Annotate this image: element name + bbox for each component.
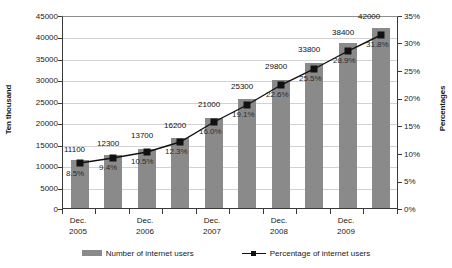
percent-label-6: 22.6% — [266, 91, 289, 99]
y-right-tick-15: 15% — [404, 123, 438, 131]
y-left-tick-5000: 5000 — [14, 185, 58, 193]
x-axis-label-2008: Dec. 2008 — [255, 216, 303, 237]
y-left-tick-40000: 40000 — [14, 34, 58, 42]
percent-label-2: 10.5% — [131, 158, 154, 166]
x-axis-label-2009: Dec. 2009 — [322, 216, 370, 237]
marker-point-2 — [144, 149, 151, 156]
y-left-tick-0: 0 — [14, 206, 58, 214]
bar-swatch-icon — [82, 250, 102, 256]
percent-label-1: 9.4% — [99, 164, 117, 172]
percent-label-8: 28.9% — [333, 57, 356, 65]
x-tickmark — [330, 209, 331, 214]
y-right-tick-0: 0% — [404, 206, 438, 214]
value-label-2: 13700 — [131, 132, 153, 140]
marker-point-3 — [177, 139, 184, 146]
value-label-4: 21000 — [198, 101, 220, 109]
y-right-tick-5: 5% — [404, 178, 438, 186]
marker-point-9 — [378, 32, 385, 39]
marker-point-7 — [311, 66, 318, 73]
y-left-tick-25000: 25000 — [14, 99, 58, 107]
x-tickmark — [196, 209, 197, 214]
y-left-tick-20000: 20000 — [14, 120, 58, 128]
legend-item-line: Percentage of internet users — [242, 249, 371, 258]
x-axis-label-2007: Dec. 2007 — [188, 216, 236, 237]
x-tickmark — [363, 209, 364, 214]
x-tickmark — [129, 209, 130, 214]
percent-label-3: 12.3% — [165, 148, 188, 156]
marker-point-1 — [110, 155, 117, 162]
y-right-tick-35: 35% — [404, 13, 438, 21]
y-left-tick-15000: 15000 — [14, 142, 58, 150]
y-left-tick-10000: 10000 — [14, 163, 58, 171]
value-label-9: 42000 — [358, 13, 380, 21]
percent-label-0: 8.5% — [66, 170, 84, 178]
x-tickmark — [296, 209, 297, 214]
plot-area — [62, 16, 398, 209]
line-marker-swatch-icon — [242, 250, 266, 257]
percent-label-7: 25.5% — [299, 75, 322, 83]
x-tickmark — [62, 209, 63, 214]
x-axis-label-2005: Dec. 2005 — [54, 216, 102, 237]
value-label-5: 25300 — [231, 83, 253, 91]
x-tickmark — [162, 209, 163, 214]
x-axis-label-2006: Dec. 2006 — [121, 216, 169, 237]
value-label-7: 33800 — [298, 46, 320, 54]
marker-point-8 — [345, 48, 352, 55]
value-label-0: 11100 — [64, 146, 85, 154]
value-label-6: 29800 — [265, 63, 287, 71]
y-left-tick-45000: 45000 — [14, 13, 58, 21]
y-right-tick-30: 30% — [404, 40, 438, 48]
legend-label-line: Percentage of internet users — [270, 249, 371, 258]
percent-label-5: 19.1% — [232, 111, 255, 119]
x-tickmark — [263, 209, 264, 214]
value-label-8: 38400 — [332, 29, 354, 37]
x-tickmark — [397, 209, 398, 214]
marker-point-0 — [77, 160, 84, 167]
value-label-3: 16200 — [164, 122, 186, 130]
percent-label-9: 31.8% — [366, 41, 389, 49]
percentage-line-series — [63, 17, 399, 210]
y-right-tick-10: 10% — [404, 151, 438, 159]
y-left-tick-30000: 30000 — [14, 77, 58, 85]
percent-label-4: 16.0% — [199, 128, 222, 136]
legend-item-bars: Number of internet users — [82, 249, 194, 258]
y-right-tick-20: 20% — [404, 95, 438, 103]
y-axis-left-title: Ten thousand — [4, 80, 13, 140]
marker-point-5 — [244, 102, 251, 109]
marker-point-6 — [278, 82, 285, 89]
x-tickmark — [95, 209, 96, 214]
chart-legend: Number of internet users Percentage of i… — [0, 246, 452, 260]
y-axis-right-title: Percentages — [438, 79, 447, 139]
legend-label-bars: Number of internet users — [106, 249, 194, 258]
chart-container: Ten thousand Percentages 45000 40000 350… — [0, 0, 452, 268]
y-left-tick-35000: 35000 — [14, 56, 58, 64]
x-tickmark — [229, 209, 230, 214]
value-label-1: 12300 — [97, 140, 119, 148]
marker-point-4 — [211, 119, 218, 126]
y-right-tick-25: 25% — [404, 68, 438, 76]
